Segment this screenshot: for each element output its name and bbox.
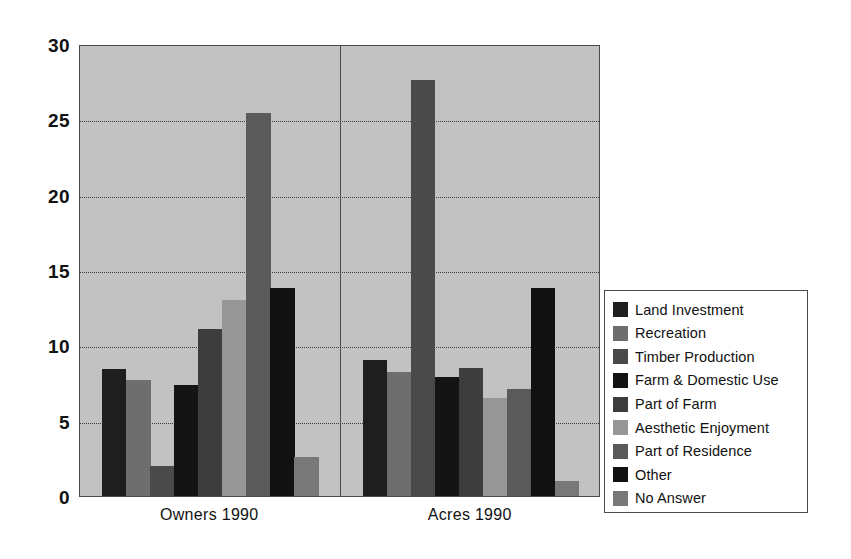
bar (174, 385, 198, 496)
legend-label: Aesthetic Enjoyment (635, 421, 769, 436)
y-tick-label: 15 (6, 262, 70, 281)
bar (411, 80, 435, 496)
legend-label: Timber Production (635, 350, 755, 365)
legend-label: Part of Farm (635, 397, 717, 412)
legend-label: Land Investment (635, 303, 744, 318)
bar (483, 398, 507, 496)
legend-label: Farm & Domestic Use (635, 373, 779, 388)
legend-item: Recreation (613, 322, 807, 346)
bar (126, 380, 150, 496)
legend: Land InvestmentRecreationTimber Producti… (604, 290, 808, 513)
y-tick-label: 5 (6, 412, 70, 431)
y-tick-label: 30 (6, 36, 70, 55)
bar (387, 372, 411, 496)
x-tick-label: Acres 1990 (428, 506, 512, 524)
figure-bar-chart: 051015202530 Owners 1990Acres 1990 Land … (0, 0, 851, 559)
bar (150, 466, 174, 496)
legend-swatch-icon (613, 349, 628, 364)
legend-label: Recreation (635, 326, 706, 341)
legend-swatch-icon (613, 373, 628, 388)
bar (246, 113, 270, 496)
y-tick-label: 20 (6, 186, 70, 205)
legend-item: Other (613, 463, 807, 487)
bar (435, 377, 459, 496)
bar (222, 300, 246, 496)
bar (102, 369, 126, 496)
plot-area (79, 45, 600, 497)
bar (270, 288, 294, 496)
bar (555, 481, 579, 496)
legend-label: Other (635, 468, 672, 483)
legend-swatch-icon (613, 326, 628, 341)
legend-item: Part of Residence (613, 440, 807, 464)
legend-item: Part of Farm (613, 392, 807, 416)
group-divider (340, 46, 341, 496)
legend-item: Land Investment (613, 298, 807, 322)
bar (198, 329, 222, 496)
legend-label: No Answer (635, 491, 706, 506)
bar (507, 389, 531, 496)
y-tick-label: 25 (6, 111, 70, 130)
legend-item: Aesthetic Enjoyment (613, 416, 807, 440)
bar (363, 360, 387, 496)
y-tick-label: 0 (6, 488, 70, 507)
legend-swatch-icon (613, 302, 628, 317)
legend-item: Timber Production (613, 345, 807, 369)
bar (459, 368, 483, 496)
y-tick-label: 10 (6, 337, 70, 356)
bar (531, 288, 555, 496)
legend-swatch-icon (613, 491, 628, 506)
bar (294, 457, 318, 496)
legend-swatch-icon (613, 444, 628, 459)
legend-item: Farm & Domestic Use (613, 369, 807, 393)
x-tick-label: Owners 1990 (160, 506, 258, 524)
y-axis: 051015202530 (0, 45, 70, 497)
legend-swatch-icon (613, 420, 628, 435)
legend-swatch-icon (613, 467, 628, 482)
legend-item: No Answer (613, 487, 807, 511)
legend-swatch-icon (613, 397, 628, 412)
legend-label: Part of Residence (635, 444, 752, 459)
